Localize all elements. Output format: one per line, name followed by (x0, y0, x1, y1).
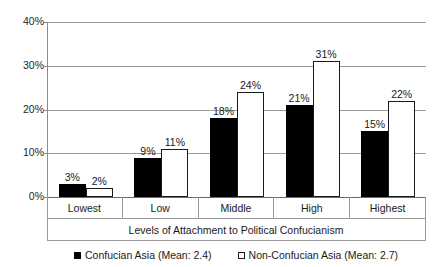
y-axis-tick-label: 40% (2, 16, 44, 27)
y-axis-tick-label: 10% (2, 147, 44, 158)
bar-pair: 9%11% (124, 22, 200, 197)
bar-value-label: 31% (316, 49, 337, 60)
x-axis-category-label: High (274, 197, 350, 218)
bar: 22% (388, 101, 415, 197)
x-axis-category-label: Low (123, 197, 199, 218)
bar: 3% (59, 184, 86, 197)
y-axis-tick-label: 0% (2, 191, 44, 202)
bar-value-label: 3% (65, 172, 80, 183)
x-axis-category-label: Highest (350, 197, 425, 218)
bar-group: 3%2% (48, 22, 124, 197)
legend-label: Non-Confucian Asia (Mean: 2.7) (249, 249, 398, 261)
bar-pair: 18%24% (199, 22, 275, 197)
bar-group: 21%31% (275, 22, 351, 197)
bar: 15% (361, 131, 388, 197)
bar: 31% (313, 61, 340, 197)
bar-groups: 3%2%9%11%18%24%21%31%15%22% (48, 22, 426, 197)
bar: 11% (161, 149, 188, 197)
x-axis-title: Levels of Attachment to Political Confuc… (129, 224, 344, 236)
bar-value-label: 15% (364, 119, 385, 130)
bar-group: 15%22% (350, 22, 426, 197)
bar-pair: 15%22% (350, 22, 426, 197)
bar-value-label: 22% (391, 89, 412, 100)
legend-item: Non-Confucian Asia (Mean: 2.7) (238, 249, 398, 261)
bar-group: 18%24% (199, 22, 275, 197)
bar-value-label: 9% (140, 146, 155, 157)
bar-value-label: 11% (165, 137, 185, 148)
chart-legend: Confucian Asia (Mean: 2.4)Non-Confucian … (47, 247, 425, 263)
y-axis-tick-label: 20% (2, 104, 44, 115)
bar-pair: 21%31% (275, 22, 351, 197)
bar: 21% (286, 105, 313, 197)
y-axis: 0%10%20%30%40% (0, 0, 44, 200)
hollow-square-icon (238, 252, 245, 259)
bar-chart: 0%10%20%30%40% 3%2%9%11%18%24%21%31%15%2… (0, 0, 441, 267)
bar: 9% (134, 158, 161, 197)
bar-pair: 3%2% (48, 22, 124, 197)
bar-value-label: 24% (240, 80, 261, 91)
x-axis-title-band: Levels of Attachment to Political Confuc… (47, 219, 425, 241)
bar: 18% (210, 118, 237, 197)
bar: 2% (86, 188, 113, 197)
bar-value-label: 2% (92, 176, 107, 187)
bar-value-label: 18% (213, 106, 234, 117)
y-axis-tick-label: 30% (2, 60, 44, 71)
bar-group: 9%11% (124, 22, 200, 197)
axis-band-right-edge (425, 197, 426, 241)
filled-square-icon (74, 252, 81, 259)
legend-label: Confucian Asia (Mean: 2.4) (85, 249, 212, 261)
bar: 24% (237, 92, 264, 197)
x-axis-categories: LowestLowMiddleHighHighest (47, 197, 425, 219)
x-axis-category-label: Middle (199, 197, 275, 218)
legend-item: Confucian Asia (Mean: 2.4) (74, 249, 212, 261)
bar-value-label: 21% (289, 93, 310, 104)
x-axis-category-label: Lowest (47, 197, 123, 218)
plot-area: 3%2%9%11%18%24%21%31%15%22% (47, 22, 426, 197)
